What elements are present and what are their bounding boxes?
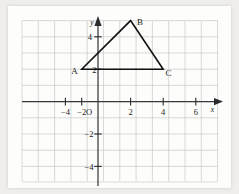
figure-root: −4 −2 2 4 6 4 2 −2 −4 O x y A B C	[0, 0, 239, 194]
triangle-abc	[82, 21, 164, 70]
origin-label: O	[86, 107, 92, 117]
y-tick-label--2: −2	[84, 129, 93, 139]
x-tick-label-4: 4	[161, 107, 166, 117]
x-tick-label--4: −4	[61, 107, 71, 117]
x-tick-label--2: −2	[77, 107, 86, 117]
vertex-label-b: B	[137, 17, 143, 27]
coordinate-plane: −4 −2 2 4 6 4 2 −2 −4 O x y A B C	[0, 0, 239, 194]
x-tick-label-2: 2	[128, 107, 132, 117]
x-tick-label-6: 6	[194, 107, 198, 117]
x-axis-label: x	[210, 105, 215, 114]
y-axis-label: y	[89, 18, 94, 27]
axes	[22, 24, 216, 186]
x-axis-arrow	[214, 98, 223, 105]
vertex-label-a: A	[71, 66, 78, 76]
y-axis-arrow	[94, 16, 101, 26]
vertex-label-c: C	[165, 68, 171, 78]
y-tick-label--4: −4	[84, 162, 94, 172]
